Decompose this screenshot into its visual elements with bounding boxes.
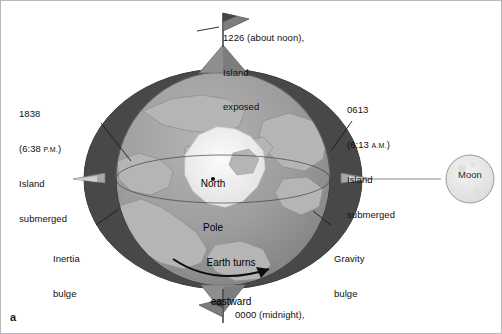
callout-morning-meridiem: A.M. — [372, 142, 387, 149]
callout-morning-paren: ) — [387, 139, 390, 150]
callout-noon: 1226 (about noon), Island exposed — [223, 9, 304, 136]
gravity-bulge-line2: bulge — [334, 288, 364, 300]
inertia-bulge-line2: bulge — [53, 288, 80, 300]
callout-morning-time: (6:13 — [347, 139, 372, 150]
callout-evening-meridiem: P.M. — [44, 146, 58, 153]
gravity-bulge-line1: Gravity — [334, 253, 364, 265]
callout-morning: 0613 (6:13 A.M.) Island submerged — [347, 81, 395, 243]
label-earth-rotation: Earth turns eastward — [188, 230, 274, 334]
callout-morning-line4: submerged — [347, 209, 395, 221]
earth-rotation-line2: eastward — [188, 295, 274, 308]
tidal-bulge-diagram: 1226 (about noon), Island exposed 1838 (… — [0, 0, 502, 334]
callout-evening-time: (6:38 — [19, 143, 44, 154]
inertia-bulge-line1: Inertia — [53, 253, 80, 265]
callout-evening-line3: Island — [19, 178, 67, 190]
callout-morning-line1: 0613 — [347, 104, 395, 116]
panel-letter: a — [10, 311, 16, 323]
north-pole-line1: North — [177, 177, 249, 190]
label-moon: Moon — [447, 169, 493, 180]
callout-evening-line2: (6:38 P.M.) — [19, 143, 67, 156]
earth-rotation-line1: Earth turns — [188, 256, 274, 269]
callout-evening-line4: submerged — [19, 213, 67, 225]
label-gravity-bulge: Gravity bulge — [334, 230, 364, 322]
callout-noon-line3: exposed — [223, 101, 304, 113]
label-inertia-bulge: Inertia bulge — [53, 230, 80, 322]
callout-evening: 1838 (6:38 P.M.) Island submerged — [19, 85, 67, 247]
callout-evening-line1: 1838 — [19, 108, 67, 120]
callout-noon-line1: 1226 (about noon), — [223, 32, 304, 44]
callout-morning-line3: Island — [347, 174, 395, 186]
callout-evening-paren: ) — [58, 143, 61, 154]
callout-noon-line2: Island — [223, 67, 304, 79]
callout-morning-line2: (6:13 A.M.) — [347, 139, 395, 152]
